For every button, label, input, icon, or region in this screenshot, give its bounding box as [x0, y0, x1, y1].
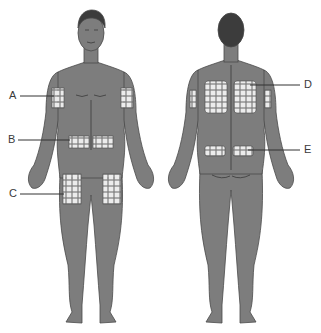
site-b-right [93, 136, 113, 148]
site-a-right [121, 88, 133, 108]
site-c-right [103, 174, 121, 204]
label-a: A [9, 90, 16, 101]
injection-site-diagram: A B C D E [0, 0, 321, 333]
site-e-right [233, 146, 253, 156]
label-d: D [304, 79, 312, 90]
site-back-arm-right [265, 90, 271, 108]
front-figure [28, 10, 153, 323]
site-d-left [205, 81, 227, 113]
site-d-right [234, 81, 256, 113]
site-c-left [63, 174, 81, 204]
site-e-left [205, 146, 225, 156]
site-b-left [69, 136, 89, 148]
label-e: E [304, 144, 311, 155]
label-b: B [8, 134, 15, 145]
label-c: C [9, 188, 17, 199]
site-back-arm-left [190, 90, 196, 108]
site-a-left [52, 88, 64, 108]
body-figures [0, 0, 321, 333]
